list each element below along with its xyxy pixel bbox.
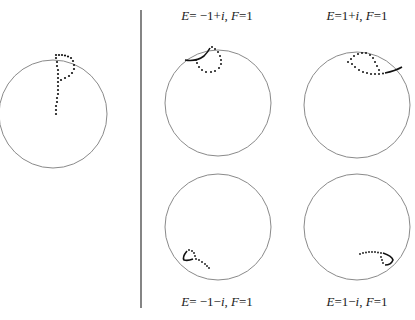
panel-bottom-middle [165, 174, 271, 280]
energy-symbol: E [181, 294, 189, 309]
energy-value: =1+ [334, 8, 355, 23]
dotted-curve [347, 52, 384, 75]
energy-value: =1− [334, 294, 355, 309]
disk-boundary [165, 50, 271, 156]
f-symbol: F [231, 8, 239, 23]
label-top-right: E=1+i, F=1 [326, 9, 387, 22]
f-value: =1 [374, 8, 388, 23]
label-bottom-right: E=1−i, F=1 [326, 295, 387, 308]
label-bottom-middle: E= −1−i, F=1 [181, 295, 253, 308]
f-value: =1 [239, 8, 253, 23]
panel-bottom-right [304, 174, 410, 280]
dense-curve-segment [183, 251, 193, 260]
disk-boundary [304, 174, 410, 280]
f-value: =1 [239, 294, 253, 309]
disk-boundary [304, 52, 410, 158]
energy-value: = −1+ [189, 8, 221, 23]
disk-boundary [165, 174, 271, 280]
energy-symbol: E [326, 8, 334, 23]
panel-initial [0, 54, 107, 168]
panel-top-middle [165, 46, 271, 156]
energy-symbol: E [326, 294, 334, 309]
disk-boundary [0, 60, 107, 168]
dotted-curve [359, 251, 384, 264]
dense-curve-segment [383, 253, 393, 265]
f-value: =1 [374, 294, 388, 309]
figure: E= −1+i, F=1 E=1+i, F=1 E= −1−i, F=1 E=1… [0, 0, 415, 320]
energy-value: = −1− [189, 294, 221, 309]
energy-symbol: E [181, 8, 189, 23]
figure-graphics [0, 0, 415, 320]
panel-top-right [304, 52, 410, 158]
dense-curve-segment [385, 67, 402, 73]
label-top-middle: E= −1+i, F=1 [181, 9, 253, 22]
f-symbol: F [231, 294, 239, 309]
